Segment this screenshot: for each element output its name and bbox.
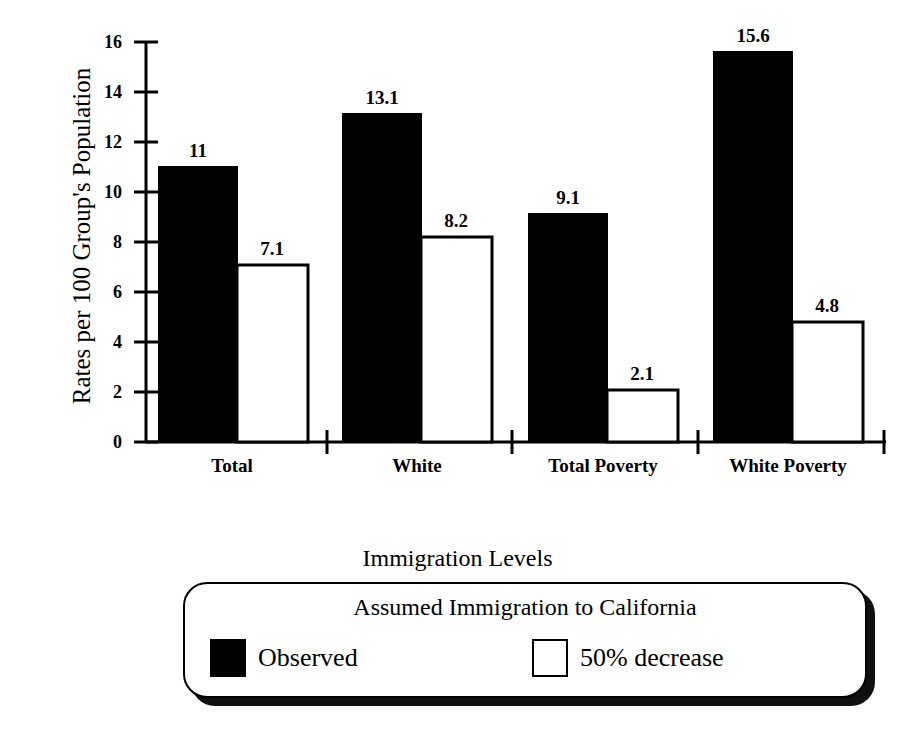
bar-value-white-observed: 13.1: [342, 87, 422, 109]
bar-value-total-poverty-observed: 9.1: [528, 187, 608, 209]
legend-box: Assumed Immigration to California Observ…: [183, 582, 867, 698]
bar-white-decrease: [421, 237, 492, 442]
legend-title: Immigration Levels: [0, 545, 915, 572]
bar-value-total-decrease: 7.1: [232, 238, 312, 260]
x-category-label-total: Total: [157, 455, 307, 477]
legend-item-50-percent-decrease: 50% decrease: [532, 639, 724, 677]
bar-value-total-observed: 11: [158, 140, 238, 162]
x-category-label-total-poverty: Total Poverty: [528, 455, 678, 477]
plot-area: [0, 0, 915, 520]
legend-swatch-hollow-icon: [532, 639, 568, 677]
bar-value-white-poverty-decrease: 4.8: [787, 295, 867, 317]
bar-total-observed: [159, 167, 237, 442]
x-category-label-white: White: [342, 455, 492, 477]
bar-white-poverty-decrease: [792, 322, 863, 442]
bar-value-total-poverty-decrease: 2.1: [602, 363, 682, 385]
legend-item-observed: Observed: [210, 639, 358, 677]
bar-value-white-decrease: 8.2: [416, 210, 496, 232]
legend-label-observed: Observed: [258, 643, 358, 673]
bar-total-poverty-decrease: [607, 390, 678, 442]
bar-value-white-poverty-observed: 15.6: [713, 25, 793, 47]
x-category-label-white-poverty: White Poverty: [713, 455, 863, 477]
bar-white-observed: [343, 114, 421, 442]
bar-chart-figure: Rates per 100 Group's Population 16 14 1…: [0, 0, 915, 751]
legend-subtitle: Assumed Immigration to California: [185, 594, 865, 621]
bar-total-decrease: [237, 265, 308, 442]
legend-label-50-percent-decrease: 50% decrease: [580, 643, 724, 673]
bar-total-poverty-observed: [529, 214, 607, 442]
legend-swatch-filled-icon: [210, 639, 246, 677]
bar-white-poverty-observed: [714, 52, 792, 442]
